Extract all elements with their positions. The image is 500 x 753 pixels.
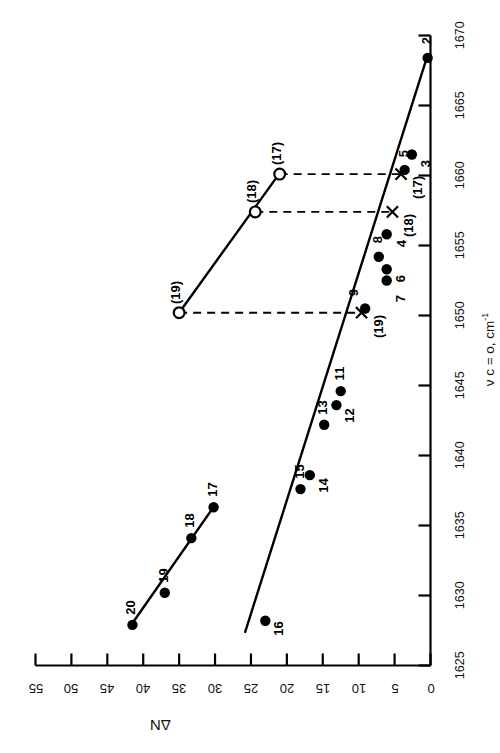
data-point-label: 20: [124, 592, 137, 622]
data-point-label: 7: [393, 283, 406, 313]
data-point-label: (19): [169, 277, 182, 307]
data-point-label: 15: [292, 457, 305, 487]
data-point-label: (18): [402, 210, 415, 240]
data-point-label: 14: [316, 471, 329, 501]
data-point-label: 2: [419, 25, 432, 55]
x-axis-title: ν c = o, cm-1: [481, 313, 496, 387]
y-tick-label: 40: [133, 682, 153, 695]
data-point-label: 12: [343, 401, 356, 431]
y-tick-label: 20: [277, 682, 297, 695]
x-tick-label: 1665: [453, 88, 466, 122]
data-point-label: 16: [272, 613, 285, 643]
y-tick-label: 25: [241, 682, 261, 695]
y-tick-label: 5: [385, 682, 405, 695]
x-tick-label: 1660: [453, 158, 466, 192]
x-tick-label: 1670: [453, 18, 466, 52]
y-tick-label: 50: [61, 682, 81, 695]
data-point-label: 5: [396, 138, 409, 168]
axes: [36, 36, 431, 666]
x-tick-label: 1655: [453, 228, 466, 262]
data-point-label: 19: [156, 560, 169, 590]
y-tick-label: 0: [421, 682, 441, 695]
data-point-label: (17): [269, 139, 282, 169]
x-tick-label: 1630: [453, 578, 466, 612]
y-axis-title: ΔN: [150, 718, 171, 733]
x-tick-label: 1640: [453, 438, 466, 472]
chart-canvas: 1625163016351640164516501655166016651670…: [0, 0, 500, 753]
data-point-label: (19): [371, 311, 384, 341]
data-point-label: (17): [411, 173, 424, 203]
y-tick-label: 30: [205, 682, 225, 695]
y-tick-label: 55: [26, 682, 46, 695]
data-point-label: 9: [347, 277, 360, 307]
data-point-label: 11: [332, 359, 345, 389]
y-tick-label: 45: [97, 682, 117, 695]
x-tick-label: 1650: [453, 298, 466, 332]
y-tick-label: 10: [349, 682, 369, 695]
chart-plot-area: [0, 0, 500, 753]
data-point-label: 8: [370, 224, 383, 254]
data-point-label: 18: [183, 506, 196, 536]
x-tick-label: 1625: [453, 648, 466, 682]
data-point-label: 17: [205, 475, 218, 505]
data-point-label: 13: [316, 392, 329, 422]
y-tick-label: 15: [313, 682, 333, 695]
x-tick-label: 1635: [453, 508, 466, 542]
data-point-label: (18): [245, 176, 258, 206]
y-tick-label: 35: [169, 682, 189, 695]
x-tick-label: 1645: [453, 368, 466, 402]
